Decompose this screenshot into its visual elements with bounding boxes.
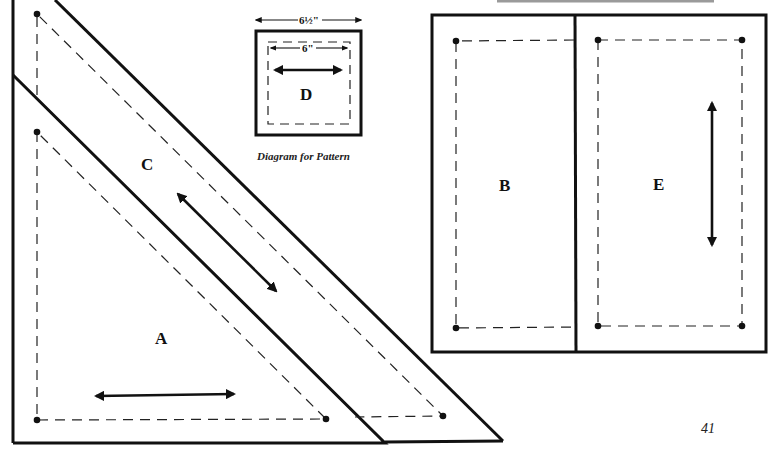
piece-c-bottom-edge [385,441,503,442]
piece-c: C [13,0,503,443]
piece-b-e-block [432,15,766,352]
piece-c-grain-arrow-icon [178,194,276,291]
piece-e-corner-dot [739,37,746,44]
piece-c-sewing-line [37,14,443,417]
piece-e-sewing-line [598,40,742,326]
pattern-sheet: A C 6½" 6" D Diagram for Pattern B [0,0,781,453]
piece-c-corner-dot [440,413,447,420]
page-number: 41 [701,421,715,436]
piece-d-label: D [300,85,312,104]
piece-a-grain-arrow-icon [96,394,234,396]
piece-b-e-outer-cut-line [432,15,766,352]
piece-b: B [453,38,574,332]
piece-a-corner-dot [34,417,41,424]
piece-b-corner-dot [453,325,460,332]
piece-a-corner-dot [323,416,330,423]
piece-c-outer-edge [55,0,503,441]
piece-e-label: E [653,175,664,194]
piece-b-sewing-line [456,40,574,328]
piece-d-sewing-line [268,42,350,124]
piece-a: A [13,75,385,443]
piece-d-inner-dimension: 6" [302,42,314,54]
piece-d: 6½" 6" D [256,14,361,135]
piece-d-outer-dimension: 6½" [299,14,319,26]
piece-a-sewing-line [37,132,326,420]
piece-a-label: A [155,329,168,348]
piece-b-label: B [499,176,510,195]
piece-b-e-divider [575,15,576,352]
piece-e-corner-dot [739,323,746,330]
piece-c-label: C [141,155,153,174]
piece-a-cut-line [13,75,385,443]
piece-e: E [595,37,746,330]
piece-b-corner-dot [453,38,460,45]
diagram-caption: Diagram for Pattern [256,150,350,162]
piece-a-corner-dot [34,129,41,136]
piece-e-corner-dot [595,37,602,44]
piece-c-corner-dot [34,11,41,18]
piece-e-corner-dot [595,323,602,330]
